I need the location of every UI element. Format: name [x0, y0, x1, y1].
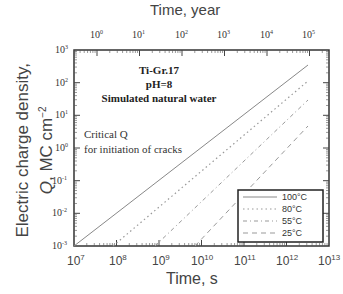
x-tick: 1011	[234, 253, 256, 268]
x2-tick: 105	[302, 29, 315, 40]
x2-major-ticks	[97, 50, 310, 56]
x2-tick: 102	[175, 29, 188, 40]
legend-label: 80°C	[282, 203, 307, 215]
bottom-axis-title: Time, s	[166, 270, 218, 288]
legend-label: 55°C	[282, 215, 307, 227]
x-tick: 109	[152, 253, 170, 268]
top-axis-title: Time, year	[150, 1, 220, 18]
annotation-material: Ti-Gr.17	[84, 63, 234, 77]
legend-label: 25°C	[282, 227, 307, 239]
critical-q-note: Critical Q for initiation of cracks	[84, 127, 182, 157]
y-axis-title: Electric charge density, QQ, MC cm, MC c…	[13, 55, 58, 245]
legend-label: 100°C	[282, 191, 307, 203]
y-axis-title-line2: QQ, MC cm, MC cm−2	[33, 55, 58, 245]
x-tick: 107	[67, 253, 85, 268]
x2-tick: 100	[90, 29, 103, 40]
x-tick: 1013	[318, 253, 340, 268]
x-tick: 108	[109, 253, 127, 268]
x2-tick: 103	[217, 29, 230, 40]
x2-tick: 104	[260, 29, 273, 40]
x-tick: 1010	[191, 253, 213, 268]
legend-box	[238, 190, 323, 242]
y-axis-title-line1: Electric charge density,	[13, 55, 33, 245]
y-tick: 103	[55, 44, 68, 55]
note-line2: for initiation of cracks	[84, 142, 182, 157]
x-tick: 1012	[276, 253, 298, 268]
annotation-medium: Simulated natural water	[84, 91, 234, 105]
note-line1: Critical Q	[84, 127, 182, 142]
legend: 100°C 80°C 55°C 25°C	[282, 191, 307, 239]
annotation-ph: pH=8	[84, 77, 234, 91]
condition-annotation: Ti-Gr.17 pH=8 Simulated natural water	[84, 63, 234, 105]
x2-tick: 101	[132, 29, 145, 40]
